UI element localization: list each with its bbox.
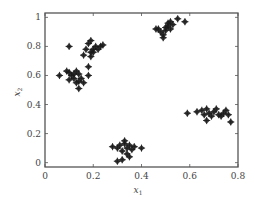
series-cluster-bottom-center xyxy=(109,137,145,165)
x-tick-label: 0.2 xyxy=(86,171,100,181)
y-axis-label: x2 xyxy=(12,87,23,96)
scatter-chart: 00.20.40.60.8 00.20.40.60.81 x1 x2 xyxy=(0,0,255,214)
x-tick-label: 0.6 xyxy=(183,171,198,181)
series-cluster-upper-left xyxy=(66,37,107,60)
data-point-marker xyxy=(109,143,116,150)
x-tick-label: 0 xyxy=(42,171,48,181)
y-tick-label: 0.8 xyxy=(27,41,42,51)
data-point-marker xyxy=(184,110,191,117)
x-tick-label: 0.8 xyxy=(231,171,246,181)
data-point-marker xyxy=(56,72,63,79)
data-points xyxy=(56,15,234,165)
x-axis-label: x1 xyxy=(134,185,143,196)
series-cluster-right xyxy=(184,105,235,125)
data-point-marker xyxy=(66,43,73,50)
y-tick-label: 0.4 xyxy=(27,100,42,110)
data-point-marker xyxy=(119,156,126,163)
y-tick-label: 1 xyxy=(35,12,41,22)
y-axis-ticks: 00.20.40.60.81 xyxy=(27,12,238,167)
y-tick-label: 0.6 xyxy=(27,70,42,80)
x-tick-label: 0.4 xyxy=(134,171,149,181)
data-point-marker xyxy=(85,63,92,70)
data-point-marker xyxy=(181,18,188,25)
data-point-marker xyxy=(114,158,121,165)
series-cluster-left xyxy=(56,63,92,92)
data-point-marker xyxy=(227,118,234,125)
data-point-marker xyxy=(193,108,200,115)
y-tick-label: 0.2 xyxy=(27,129,41,139)
plot-frame xyxy=(45,13,238,167)
data-point-marker xyxy=(138,145,145,152)
y-tick-label: 0 xyxy=(35,158,41,168)
data-point-marker xyxy=(85,72,92,79)
series-cluster-top-center xyxy=(152,15,188,41)
x-axis-ticks: 00.20.40.60.8 xyxy=(42,13,245,181)
data-point-marker xyxy=(174,15,181,22)
